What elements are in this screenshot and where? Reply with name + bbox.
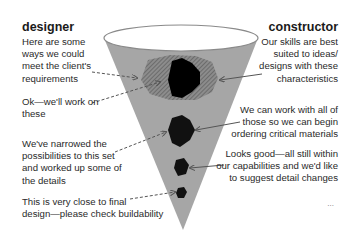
note-line: the details (22, 175, 122, 187)
note-line: We can work with all of (231, 104, 338, 116)
designer-note-1: Here are some ways we could meet the cli… (22, 36, 91, 85)
note-line: suited to ideas/ (259, 48, 338, 60)
note-line: Looks good—all still within (216, 148, 338, 160)
note-line: designs with these (259, 60, 338, 72)
designer-heading: designer (22, 20, 74, 34)
note-line: ordering critical materials (231, 128, 338, 140)
note-line: these (22, 108, 98, 120)
note-line: Ok—we'll work on (22, 96, 98, 108)
designer-note-4: This is very close to final design—pleas… (22, 196, 163, 220)
constructor-note-1: Our skills are best suited to ideas/ des… (259, 36, 338, 85)
note-line: and worked up some of (22, 162, 122, 174)
note-line: to suggest detail changes (216, 172, 338, 184)
designer-note-3: We've narrowed the possibilities to this… (22, 138, 122, 187)
note-line: our capabilities and we'd like (216, 160, 338, 172)
note-line: design—please check buildability (22, 208, 163, 220)
note-line: meet the client's (22, 60, 91, 72)
constructor-note-2: We can work with all of those so we can … (231, 104, 338, 141)
note-line: ... (327, 198, 334, 210)
note-line: ways we could (22, 48, 91, 60)
note-line: We've narrowed the (22, 138, 122, 150)
constructor-note-ellipsis: ... (327, 198, 334, 210)
note-line: Our skills are best (259, 36, 338, 48)
note-line: This is very close to final (22, 196, 163, 208)
note-line: characteristics (259, 73, 338, 85)
note-line: requirements (22, 73, 91, 85)
note-line: those so we can begin (231, 116, 338, 128)
note-line: Here are some (22, 36, 91, 48)
constructor-heading: constructor (269, 20, 338, 34)
note-line: possibilities to this set (22, 150, 122, 162)
funnel-rim (104, 25, 258, 51)
designer-note-2: Ok—we'll work on these (22, 96, 98, 120)
constructor-note-3: Looks good—all still within our capabili… (216, 148, 338, 185)
